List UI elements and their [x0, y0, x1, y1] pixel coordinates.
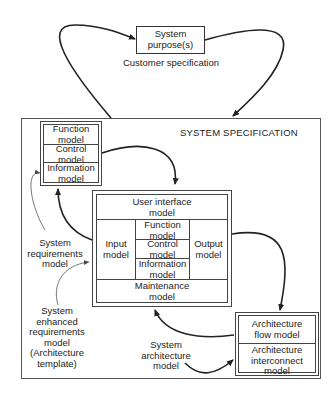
user-interface-model: User interface model	[96, 197, 228, 218]
req-information-model: Information model	[43, 163, 99, 184]
enh-control-model: Control model	[135, 239, 190, 260]
system-enhanced-requirements-annotation: System enhanced requirements model (Arch…	[22, 306, 92, 369]
input-model: Input model	[96, 239, 136, 260]
maintenance-model: Maintenance model	[96, 281, 228, 302]
system-requirements-model-annotation: System requirements model	[24, 238, 86, 270]
system-purpose-label: System purpose(s)	[136, 29, 205, 50]
enh-information-model: Information model	[135, 259, 190, 280]
req-function-model: Function model	[43, 124, 99, 145]
customer-specification-caption: Customer specification	[120, 58, 222, 69]
architecture-interconnect-model: Architecture interconnect model	[238, 345, 316, 377]
system-specification-diagram: SYSTEM SPECIFICATION System purpose(s) C…	[0, 0, 334, 396]
system-specification-title: SYSTEM SPECIFICATION	[180, 127, 298, 138]
architecture-flow-model: Architecture flow model	[238, 319, 316, 340]
output-model: Output model	[189, 239, 228, 260]
system-architecture-model-annotation: System architecture model	[136, 340, 196, 372]
